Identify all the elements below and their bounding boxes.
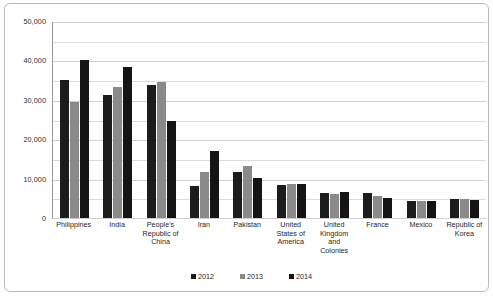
bar-2013	[287, 184, 296, 218]
bar-2013	[113, 87, 122, 218]
bar-2014	[167, 121, 176, 218]
legend-item: 2012	[191, 272, 214, 281]
x-axis-tick-label: Philippines	[52, 221, 95, 255]
legend-item: 2014	[289, 272, 312, 281]
legend-label: 2013	[247, 272, 263, 281]
bar-2012	[277, 185, 286, 218]
x-axis-tick-label: Mexico	[399, 221, 442, 255]
legend-swatch-icon	[240, 274, 245, 279]
bar-2013	[330, 194, 339, 218]
bar-chart-figure: 010,00020,00030,00040,00050,000 Philippi…	[0, 0, 493, 296]
bar-group	[96, 22, 139, 218]
bar-2013	[373, 196, 382, 218]
legend-item: 2013	[240, 272, 263, 281]
y-axis-tick-label: 0	[4, 215, 46, 222]
legend-swatch-icon	[191, 274, 196, 279]
bar-2014	[253, 178, 262, 218]
bar-2012	[190, 186, 199, 218]
bar-2013	[460, 199, 469, 218]
x-axis-tick-label: Iran	[182, 221, 225, 255]
bar-group	[226, 22, 269, 218]
y-axis-tick-label: 30,000	[4, 97, 46, 104]
plot-area	[52, 22, 486, 219]
bar-2012	[320, 193, 329, 218]
bar-group	[399, 22, 442, 218]
bar-2013	[200, 172, 209, 218]
bar-group	[443, 22, 486, 218]
bar-group	[313, 22, 356, 218]
bar-group	[140, 22, 183, 218]
chart-frame: 010,00020,00030,00040,00050,000 Philippi…	[4, 3, 489, 292]
y-axis-tick-label: 50,000	[4, 18, 46, 25]
bar-group	[53, 22, 96, 218]
y-axis-tick-label: 20,000	[4, 136, 46, 143]
x-axis-tick-label: United States of America	[269, 221, 312, 255]
chart-legend: 201220132014	[5, 272, 493, 281]
bar-2013	[157, 82, 166, 218]
gridline	[53, 218, 486, 219]
x-axis-tick-label: Republic of Korea	[443, 221, 486, 255]
bar-2014	[383, 198, 392, 218]
bars-layer	[53, 22, 486, 218]
x-axis-tick-label: Pakistan	[226, 221, 269, 255]
bar-group	[183, 22, 226, 218]
bar-2013	[243, 166, 252, 218]
bar-2012	[103, 95, 112, 218]
bar-group	[356, 22, 399, 218]
bar-2014	[297, 184, 306, 218]
bar-2014	[427, 201, 436, 218]
bar-2012	[363, 193, 372, 218]
legend-swatch-icon	[289, 274, 294, 279]
bar-2014	[210, 151, 219, 218]
bar-group	[269, 22, 312, 218]
bar-2014	[80, 60, 89, 218]
y-axis-tick-label: 10,000	[4, 176, 46, 183]
x-axis-tick-labels: PhilippinesIndiaPeople's Republic of Chi…	[52, 221, 486, 255]
bar-2014	[470, 200, 479, 218]
bar-2012	[407, 201, 416, 218]
bar-2014	[340, 192, 349, 218]
bar-2012	[147, 85, 156, 218]
x-axis-tick-label: France	[356, 221, 399, 255]
x-axis-tick-label: India	[95, 221, 138, 255]
bar-2013	[70, 102, 79, 218]
y-axis-tick-label: 40,000	[4, 57, 46, 64]
x-axis-tick-label: United Kingdom and Colonies	[312, 221, 355, 255]
x-axis-tick-label: People's Republic of China	[139, 221, 182, 255]
legend-label: 2012	[198, 272, 214, 281]
bar-2012	[450, 199, 459, 218]
bar-2014	[123, 67, 132, 218]
bar-2012	[233, 172, 242, 218]
bar-2013	[417, 201, 426, 218]
legend-label: 2014	[296, 272, 312, 281]
bar-2012	[60, 80, 69, 218]
